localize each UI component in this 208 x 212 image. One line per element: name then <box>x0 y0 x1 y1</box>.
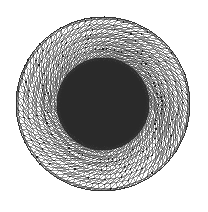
inner-fine-mesh-region <box>57 58 149 150</box>
mesh-figure <box>0 0 208 212</box>
mesh-canvas <box>0 0 208 212</box>
